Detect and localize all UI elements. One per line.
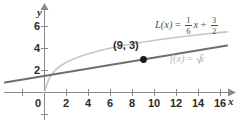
line-eq-close-paren: ) [169, 20, 173, 31]
line-eq-slope-denominator: 6 [185, 27, 191, 36]
curve-eq-close-paren: ) [181, 54, 185, 65]
line-eq-intercept-numerator: 3 [211, 16, 217, 25]
tangency-point-label: (9, 3) [113, 40, 139, 51]
line-eq-slope-numerator: 1 [185, 16, 191, 25]
x-tick-label-6: 6 [107, 98, 113, 109]
graph-figure: y x 6 4 2 0 2 4 6 8 10 12 14 16 (9, 3) L… [0, 0, 245, 128]
y-tick-label-6: 6 [34, 21, 40, 32]
line-eq-equals: = [175, 20, 181, 31]
y-axis-label: y [37, 7, 42, 18]
line-eq-intercept-fraction: 3 2 [211, 16, 218, 35]
y-tick-label-4: 4 [34, 43, 40, 54]
curve-eq-radicand: x [200, 54, 205, 65]
x-tick-label-16: 16 [214, 98, 226, 109]
x-tick-label-2: 2 [63, 98, 69, 109]
curve-eq-equals: = [187, 54, 193, 65]
x-tick-label-8: 8 [129, 98, 135, 109]
curve-equation-annotation: f(x) = x [170, 53, 204, 65]
x-tick-label-14: 14 [192, 98, 204, 109]
line-eq-slope-variable: x [193, 20, 198, 31]
x-axis-label: x [228, 96, 234, 107]
y-tick-label-2: 2 [34, 65, 40, 76]
x-tick-label-12: 12 [170, 98, 182, 109]
line-eq-plus: + [201, 20, 207, 31]
x-tick-label-10: 10 [148, 98, 160, 109]
line-eq-slope-fraction: 1 6 [185, 16, 192, 35]
tangency-point-marker [140, 56, 147, 63]
line-equation-annotation: L(x) = 1 6 x + 3 2 [155, 16, 219, 35]
x-tick-label-4: 4 [85, 98, 91, 109]
x-tick-label-0: 0 [35, 98, 41, 109]
line-eq-intercept-denominator: 2 [211, 27, 217, 36]
